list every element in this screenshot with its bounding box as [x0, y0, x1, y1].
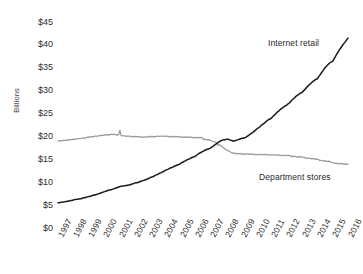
x-tick-1998: 1998 [71, 217, 89, 239]
x-tick-2015: 2015 [330, 217, 348, 239]
x-tick-2003: 2003 [147, 217, 165, 239]
annotation-department-stores: Department stores [259, 172, 331, 182]
x-tick-2010: 2010 [254, 217, 272, 239]
x-tick-2013: 2013 [300, 217, 318, 239]
x-tick-2009: 2009 [239, 217, 257, 239]
x-tick-2000: 2000 [101, 217, 119, 239]
x-tick-2002: 2002 [132, 217, 150, 239]
x-tick-1997: 1997 [56, 217, 74, 239]
x-tick-2007: 2007 [208, 217, 226, 239]
x-tick-2014: 2014 [315, 217, 333, 239]
x-tick-2008: 2008 [223, 217, 241, 239]
x-tick-2001: 2001 [117, 217, 135, 239]
annotation-internet-retail: Internet retail [268, 38, 319, 48]
x-tick-2004: 2004 [162, 217, 180, 239]
x-tick-2005: 2005 [178, 217, 196, 239]
x-tick-1999: 1999 [86, 217, 104, 239]
x-tick-2006: 2006 [193, 217, 211, 239]
x-tick-2012: 2012 [284, 217, 302, 239]
x-tick-2016: 2016 [346, 217, 363, 239]
